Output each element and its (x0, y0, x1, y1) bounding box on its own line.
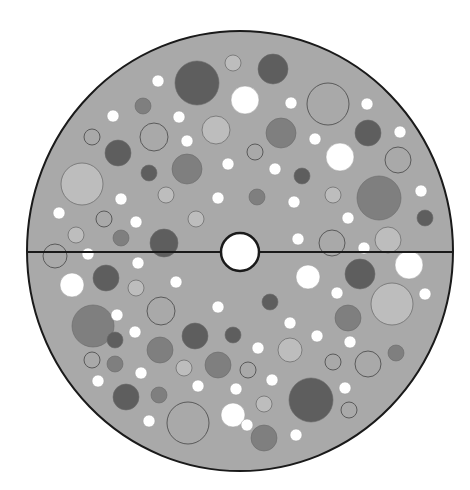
inclusion-circle-dark (258, 54, 288, 84)
inclusion-circle-white (415, 185, 427, 197)
inclusion-circle-dark (175, 61, 219, 105)
inclusion-circle-white (130, 216, 142, 228)
inclusion-circle-white (152, 75, 164, 87)
inclusion-circle-white (111, 309, 123, 321)
inclusion-circle-dark (262, 294, 278, 310)
inclusion-circle-medium (251, 425, 277, 451)
inclusion-circle-outlined (355, 351, 381, 377)
inclusion-circle-white (143, 415, 155, 427)
inclusion-circle-white (60, 273, 84, 297)
inclusion-circle-white (394, 126, 406, 138)
inclusion-circle-white (395, 251, 423, 279)
inclusion-circle-dark (105, 140, 131, 166)
inclusion-circle-white (285, 97, 297, 109)
inclusion-circle-outlined (43, 244, 67, 268)
inclusion-circle-outlined (341, 402, 357, 418)
inclusion-circle-medium (249, 189, 265, 205)
inclusion-circle-dark (182, 323, 208, 349)
inclusion-circle-light (188, 211, 204, 227)
inclusion-circle-light (128, 280, 144, 296)
inclusion-circle-white (339, 382, 351, 394)
inclusion-circle-light (176, 360, 192, 376)
inclusion-circle-white (135, 367, 147, 379)
inclusion-circle-white (53, 207, 65, 219)
inclusion-circle-white (331, 287, 343, 299)
inclusion-circle-outlined (84, 129, 100, 145)
inclusion-circle-outlined (247, 144, 263, 160)
inclusion-circle-light (158, 187, 174, 203)
inclusion-circle-light (225, 55, 241, 71)
inclusion-circle-dark (345, 259, 375, 289)
inclusion-circle-white (231, 86, 259, 114)
inclusion-circle-white (92, 375, 104, 387)
inclusion-circle-white (361, 98, 373, 110)
inclusion-circle-white (132, 257, 144, 269)
inclusion-circle-white (192, 380, 204, 392)
inclusion-circle-dark (93, 265, 119, 291)
inclusion-circle-light (278, 338, 302, 362)
inclusion-circle-white (269, 163, 281, 175)
inclusion-circle-medium (205, 352, 231, 378)
inclusion-circle-medium (357, 176, 401, 220)
inclusion-circle-white (292, 233, 304, 245)
inclusion-circle-dark (225, 327, 241, 343)
inclusion-circle-white (296, 265, 320, 289)
inclusion-circle-light (375, 227, 401, 253)
inclusion-circle-medium (266, 118, 296, 148)
inclusion-circle-white (115, 193, 127, 205)
inclusion-circle-white (107, 110, 119, 122)
inclusion-circle-medium (172, 154, 202, 184)
inclusion-circle-dark (355, 120, 381, 146)
inclusion-circle-white (82, 248, 94, 260)
inclusion-circle-light (256, 396, 272, 412)
inclusion-circle-outlined (385, 147, 411, 173)
inclusion-circle-dark (107, 332, 123, 348)
disk-diagram (0, 0, 470, 490)
inclusion-circle-white (309, 133, 321, 145)
inclusion-circle-outlined (84, 352, 100, 368)
inclusion-circle-medium (147, 337, 173, 363)
inclusion-circle-white (222, 158, 234, 170)
inclusion-circle-white (181, 135, 193, 147)
inclusion-circle-dark (417, 210, 433, 226)
inclusion-circle-light (371, 283, 413, 325)
inclusion-circle-white (212, 192, 224, 204)
inclusion-circle-medium (135, 98, 151, 114)
center-hole (221, 233, 259, 271)
inclusion-circle-light (325, 187, 341, 203)
inclusion-circle-white (241, 419, 253, 431)
inclusion-circle-medium (107, 356, 123, 372)
inclusion-circle-white (173, 111, 185, 123)
inclusion-circle-dark (141, 165, 157, 181)
inclusion-circle-outlined (140, 123, 168, 151)
inclusion-circle-white (284, 317, 296, 329)
inclusion-circle-outlined (147, 297, 175, 325)
inclusion-circle-white (212, 301, 224, 313)
inclusion-circle-medium (113, 230, 129, 246)
inclusion-circle-medium (151, 387, 167, 403)
inclusion-circle-outlined (96, 211, 112, 227)
inclusion-circle-white (290, 429, 302, 441)
inclusion-circle-dark (113, 384, 139, 410)
inclusion-circle-medium (335, 305, 361, 331)
inclusion-circle-white (344, 336, 356, 348)
inclusion-circle-light (202, 116, 230, 144)
diagram-canvas (0, 0, 470, 490)
inclusion-circle-outlined (307, 83, 349, 125)
inclusion-circle-white (230, 383, 242, 395)
inclusion-circle-white (419, 288, 431, 300)
inclusion-circle-light (61, 163, 103, 205)
inclusion-circle-white (288, 196, 300, 208)
inclusion-circle-white (129, 326, 141, 338)
inclusion-circle-white (326, 143, 354, 171)
inclusion-circle-medium (388, 345, 404, 361)
inclusion-circle-white (252, 342, 264, 354)
inclusion-circle-outlined (325, 354, 341, 370)
inclusion-circle-light (68, 227, 84, 243)
inclusion-circle-white (266, 374, 278, 386)
inclusion-circle-outlined (240, 362, 256, 378)
inclusion-circle-white (342, 212, 354, 224)
inclusion-circle-outlined (167, 402, 209, 444)
inclusion-circle-white (170, 276, 182, 288)
inclusion-circle-dark (289, 378, 333, 422)
